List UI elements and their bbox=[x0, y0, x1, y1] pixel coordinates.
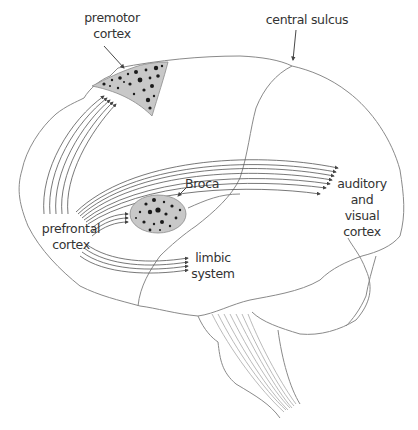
premotor-cortex-label: premotor cortex bbox=[72, 10, 152, 42]
premotor-region bbox=[92, 62, 168, 116]
central-sulcus-label: central sulcus bbox=[252, 12, 362, 28]
premotor-arrow-icon bbox=[104, 46, 124, 68]
auditory-visual-cortex-label: auditory and visual cortex bbox=[332, 176, 392, 240]
cerebellum bbox=[252, 238, 370, 334]
prefrontal-cortex-label: prefrontal cortex bbox=[36, 221, 106, 253]
temporal-contour bbox=[188, 194, 240, 208]
broca-region bbox=[130, 195, 186, 233]
premotor-fibers bbox=[44, 96, 116, 214]
broca-label: Broca bbox=[182, 176, 222, 192]
limbic-system-label: limbic system bbox=[188, 250, 238, 282]
central-sulcus-arrow-icon bbox=[293, 30, 296, 60]
temporal-lower-contour bbox=[346, 256, 376, 326]
